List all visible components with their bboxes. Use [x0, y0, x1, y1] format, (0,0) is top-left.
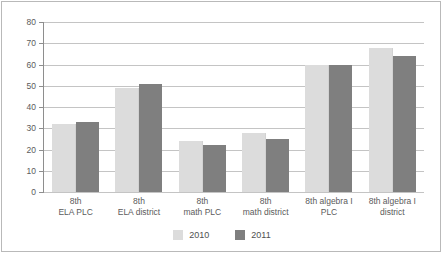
x-category-label: 8th algebra Idistrict	[361, 196, 424, 218]
y-tick-label-60: 60	[6, 61, 36, 69]
x-category-label-line: 8th	[44, 196, 107, 207]
legend-label: 2011	[251, 231, 270, 240]
bar-2011-8th-math-plc[interactable]	[203, 145, 226, 192]
y-tick-label-10: 10	[6, 167, 36, 175]
y-tick-mark-50	[39, 86, 43, 87]
x-category-label: 8thELA PLC	[44, 196, 107, 218]
legend-label: 2010	[189, 231, 209, 240]
bar-2011-8th-algebra-i-district[interactable]	[393, 56, 416, 192]
bar-2010-8th-algebra-i-plc[interactable]	[305, 65, 329, 193]
x-category-label: 8thmath district	[234, 196, 297, 218]
y-tick-mark-0	[39, 192, 43, 193]
y-tick-mark-10	[39, 171, 43, 172]
chart-legend: 20102011	[2, 230, 442, 240]
y-tick-label-0: 0	[6, 188, 36, 196]
y-tick-label-20: 20	[6, 146, 36, 154]
x-category-label-line: math district	[234, 207, 297, 218]
y-tick-mark-60	[39, 65, 43, 66]
legend-swatch-icon	[235, 230, 245, 240]
x-category-label: 8thmath PLC	[171, 196, 234, 218]
bar-2010-8th-math-district[interactable]	[242, 133, 266, 193]
x-axis-category-labels: 8thELA PLC8thELA district8thmath PLC8thm…	[44, 196, 424, 226]
bar-2010-8th-algebra-i-district[interactable]	[369, 48, 393, 193]
bar-group	[107, 22, 170, 192]
y-axis-tick-labels: 80706050403020100	[2, 2, 36, 255]
y-tick-label-80: 80	[6, 18, 36, 26]
bar-group	[234, 22, 297, 192]
x-category-label-line: 8th	[107, 196, 170, 207]
bar-2010-8th-ela-plc[interactable]	[52, 124, 76, 192]
y-tick-label-30: 30	[6, 124, 36, 132]
legend-item-2011[interactable]: 2011	[235, 230, 270, 240]
bar-group	[297, 22, 360, 192]
x-category-label: 8thELA district	[107, 196, 170, 218]
y-tick-mark-30	[39, 128, 43, 129]
chart-container: 80706050403020100 8thELA PLC8thELA distr…	[1, 1, 441, 252]
y-tick-mark-70	[39, 43, 43, 44]
x-category-label-line: 8th	[171, 196, 234, 207]
bar-group	[44, 22, 107, 192]
bar-group	[171, 22, 234, 192]
bar-2010-8th-math-plc[interactable]	[179, 141, 203, 192]
y-tick-label-50: 50	[6, 82, 36, 90]
x-category-label-line: district	[361, 207, 424, 218]
x-category-label: 8th algebra IPLC	[297, 196, 360, 218]
bar-2011-8th-algebra-i-plc[interactable]	[329, 65, 352, 193]
y-tick-label-40: 40	[6, 103, 36, 111]
x-category-label-line: 8th algebra I	[361, 196, 424, 207]
bar-2010-8th-ela-district[interactable]	[115, 88, 139, 192]
bar-series-layer	[44, 22, 424, 192]
x-category-label-line: 8th algebra I	[297, 196, 360, 207]
x-category-label-line: 8th	[234, 196, 297, 207]
bar-group	[361, 22, 424, 192]
gridline-0	[43, 192, 424, 193]
bar-2011-8th-math-district[interactable]	[266, 139, 289, 192]
x-category-label-line: PLC	[297, 207, 360, 218]
y-tick-label-70: 70	[6, 39, 36, 47]
x-category-label-line: math PLC	[171, 207, 234, 218]
x-category-label-line: ELA district	[107, 207, 170, 218]
y-tick-mark-20	[39, 150, 43, 151]
bar-2011-8th-ela-district[interactable]	[139, 84, 162, 192]
y-tick-mark-80	[39, 22, 43, 23]
y-tick-mark-40	[39, 107, 43, 108]
legend-item-2010[interactable]: 2010	[173, 230, 209, 240]
legend-swatch-icon	[173, 230, 183, 240]
bar-2011-8th-ela-plc[interactable]	[76, 122, 99, 192]
x-category-label-line: ELA PLC	[44, 207, 107, 218]
